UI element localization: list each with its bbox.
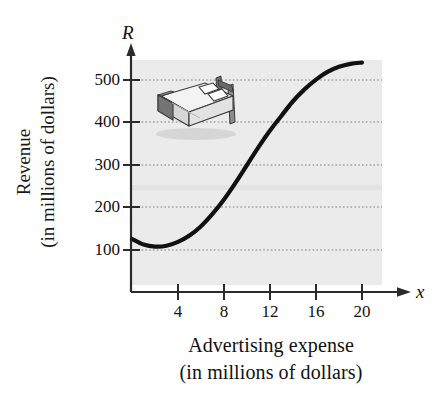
chart-figure: Revenue (in millions of dollars) R x 500… (0, 0, 438, 409)
plot-area-svg (0, 0, 438, 409)
bed-shadow (156, 128, 236, 140)
y-axis-arrowhead (126, 43, 135, 56)
scan-artifact-band (132, 185, 382, 190)
x-axis-arrowhead (397, 287, 411, 297)
